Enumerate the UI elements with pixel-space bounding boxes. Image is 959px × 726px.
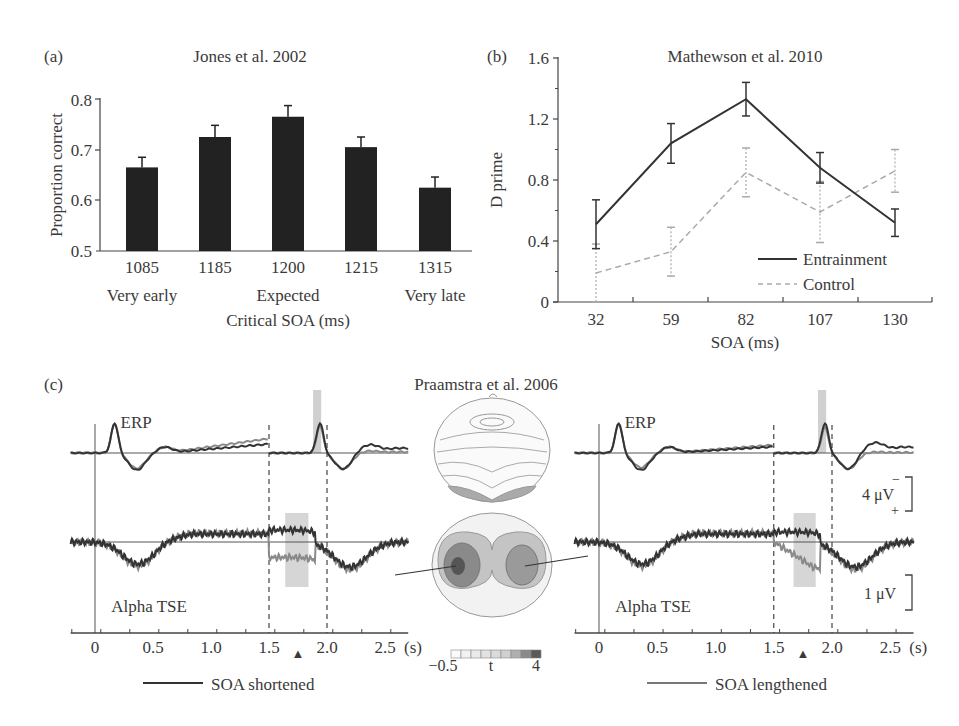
xaxis-unit: (s) xyxy=(909,638,927,657)
ytick-label: 1.6 xyxy=(528,49,549,68)
panel-b-xlabel: SOA (ms) xyxy=(711,333,779,352)
xtick-label: 1.0 xyxy=(200,638,221,657)
erp-trace xyxy=(71,424,268,470)
xtick-label: 1085 xyxy=(125,258,159,277)
erp-trace xyxy=(774,424,914,470)
xtick-label: 1200 xyxy=(271,258,305,277)
erp-trace xyxy=(575,424,773,468)
xtick-label: 32 xyxy=(588,310,605,329)
bar xyxy=(126,167,158,251)
event-marker-icon: ▲ xyxy=(796,646,809,661)
ytick-label: 0.4 xyxy=(528,232,550,251)
xtick-label: 0.5 xyxy=(647,638,668,657)
svg-text:+: + xyxy=(891,503,899,518)
panel-a-bars xyxy=(126,106,451,251)
xtick-label: 2.0 xyxy=(316,638,337,657)
panel-b-legend: Entrainment Control xyxy=(758,250,887,294)
panel-a-label: (a) xyxy=(44,47,63,66)
erp-trace xyxy=(774,427,914,469)
xtick-label: 0 xyxy=(595,638,604,657)
panel-b-label: (b) xyxy=(487,47,507,66)
topo-colorbar xyxy=(451,650,541,658)
panel-b-yticks: 00.40.81.21.6 xyxy=(528,49,558,312)
ytick: 0.5 xyxy=(71,242,92,261)
tse-trace-dark xyxy=(71,527,409,570)
alpha-tse-label: Alpha TSE xyxy=(111,597,187,616)
tse-shaded-window xyxy=(285,513,308,587)
ytick-label: 0 xyxy=(541,293,550,312)
xtick-label: 107 xyxy=(807,310,833,329)
bar xyxy=(419,188,451,251)
panel-c-title: Praamstra et al. 2006 xyxy=(414,375,558,394)
event-marker-icon: ▲ xyxy=(292,646,305,661)
ytick: 0.8 xyxy=(71,91,92,110)
panel-c-label: (c) xyxy=(44,375,63,394)
colorbar-min-label: −0.5 xyxy=(428,657,457,674)
panel-b-title: Mathewson et al. 2010 xyxy=(668,47,823,66)
panel-a-ylabel: Proportion correct xyxy=(47,113,66,237)
bar xyxy=(199,137,231,251)
panel-c: (c) Praamstra et al. 2006 ERPAlpha TSE00… xyxy=(44,375,927,694)
erp-label: ERP xyxy=(121,413,152,432)
ytick: 0.6 xyxy=(71,191,92,210)
scale-bar-tse: 1 μV xyxy=(864,575,912,610)
ytick-label: 0.8 xyxy=(528,171,549,190)
ytick: 0.7 xyxy=(71,141,93,160)
scale-bar-erp-label: 4 μV xyxy=(862,486,895,504)
xtick-label: 0 xyxy=(91,638,100,657)
panel-c-right-subplot: ERPAlpha TSE00.51.01.52.02.5(s)▲SOA leng… xyxy=(575,390,928,694)
colorbar-label: t xyxy=(489,657,494,674)
xtick-label: 2.0 xyxy=(821,638,842,657)
scale-bar-tse-label: 1 μV xyxy=(864,585,897,603)
xtick-label: 1315 xyxy=(418,258,452,277)
topo-map-erp xyxy=(434,394,550,502)
legend-control-label: Control xyxy=(803,275,855,294)
topo-map-tse xyxy=(395,513,588,617)
panel-b-ylabel: D prime xyxy=(487,152,506,208)
bar xyxy=(272,117,304,251)
figure-canvas: (a) Jones et al. 2002 Proportion correct… xyxy=(0,0,959,726)
tse-shaded-window xyxy=(794,513,816,587)
xtick-label: 82 xyxy=(738,310,755,329)
legend-label: SOA shortened xyxy=(211,675,315,694)
panel-b-series xyxy=(592,82,899,302)
xaxis-unit: (s) xyxy=(404,638,422,657)
erp-trace xyxy=(269,424,408,470)
panel-a-xlabel: Critical SOA (ms) xyxy=(226,311,350,330)
panel-c-left-subplot: ERPAlpha TSE00.51.01.52.02.5(s)▲SOA shor… xyxy=(71,390,422,694)
ytick-label: 1.2 xyxy=(528,110,549,129)
xtick-label: 1185 xyxy=(198,258,231,277)
tse-trace-dark xyxy=(575,529,914,570)
erp-label: ERP xyxy=(625,413,656,432)
legend-label: SOA lengthened xyxy=(715,675,827,694)
xtick-sublabel: Very early xyxy=(107,286,178,305)
xtick-label: 2.5 xyxy=(374,638,395,657)
panel-a-xticklabels: 1085Very early11851200Expected12151315Ve… xyxy=(107,258,466,305)
panel-a-title: Jones et al. 2002 xyxy=(193,47,306,66)
xtick-label: 130 xyxy=(882,310,908,329)
xtick-sublabel: Very late xyxy=(405,286,466,305)
colorbar-max-label: 4 xyxy=(532,657,540,674)
panel-a: (a) Jones et al. 2002 Proportion correct… xyxy=(44,47,472,330)
xtick-label: 1.5 xyxy=(763,638,784,657)
xtick-label: 2.5 xyxy=(880,638,901,657)
xtick-label: 0.5 xyxy=(142,638,163,657)
legend-entrainment-label: Entrainment xyxy=(803,250,887,269)
panel-b: (b) Mathewson et al. 2010 D prime 00.40.… xyxy=(487,47,932,352)
alpha-tse-label: Alpha TSE xyxy=(615,597,691,616)
xtick-sublabel: Expected xyxy=(256,286,320,305)
scale-bar-erp: − 4 μV + xyxy=(862,472,912,518)
svg-text:−: − xyxy=(892,472,900,487)
xtick-label: 59 xyxy=(663,310,680,329)
xtick-label: 1.0 xyxy=(705,638,726,657)
bar xyxy=(345,147,377,251)
xtick-label: 1.5 xyxy=(258,638,279,657)
xtick-label: 1215 xyxy=(344,258,378,277)
